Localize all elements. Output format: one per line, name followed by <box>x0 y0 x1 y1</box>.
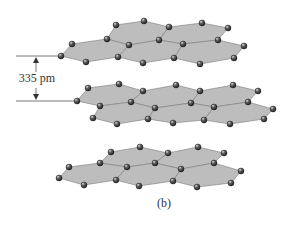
carbon-atom-icon <box>230 82 236 88</box>
carbon-atom-icon <box>66 164 72 170</box>
carbon-atom-icon <box>104 36 110 42</box>
carbon-atom-icon <box>152 160 158 166</box>
carbon-atom-icon <box>238 168 244 174</box>
carbon-atom-icon <box>140 60 146 66</box>
carbon-atom-icon <box>97 160 103 166</box>
carbon-atom-icon <box>108 149 114 155</box>
carbon-atom-icon <box>116 81 122 87</box>
carbon-atom-icon <box>194 184 200 190</box>
carbon-atom-icon <box>231 55 237 61</box>
carbon-atom-icon <box>126 42 132 48</box>
carbon-atom-icon <box>140 88 146 94</box>
carbon-atom-icon <box>145 116 151 122</box>
carbon-atom-icon <box>69 41 75 47</box>
carbon-atom-icon <box>227 121 233 127</box>
graphite-layers-diagram: 335 pm (b) <box>0 0 292 226</box>
carbon-atom-icon <box>152 105 158 111</box>
carbon-atom-icon <box>115 54 121 60</box>
carbon-atom-icon <box>137 144 143 150</box>
carbon-atom-icon <box>255 88 261 94</box>
carbon-atom-icon <box>156 37 162 43</box>
carbon-atom-icon <box>201 117 207 123</box>
carbon-atom-icon <box>180 41 186 47</box>
carbon-atom-icon <box>83 59 89 65</box>
carbon-atom-icon <box>221 150 227 156</box>
interlayer-spacing-dimension: 335 pm <box>16 56 74 101</box>
carbon-atom-icon <box>225 25 231 31</box>
carbon-atom-icon <box>170 178 176 184</box>
carbon-atom-icon <box>90 115 96 121</box>
graphene-layer-middle <box>74 81 276 127</box>
carbon-atom-icon <box>241 43 247 49</box>
carbon-atom-icon <box>173 82 179 88</box>
carbon-atom-icon <box>195 144 201 150</box>
carbon-atom-icon <box>74 98 80 104</box>
carbon-atom-icon <box>136 183 142 189</box>
carbon-atom-icon <box>124 164 130 170</box>
carbon-atom-icon <box>261 116 267 122</box>
carbon-atom-icon <box>113 22 119 28</box>
carbon-atom-icon <box>245 99 251 105</box>
spacing-label: 335 pm <box>19 71 56 85</box>
carbon-atom-icon <box>270 106 276 112</box>
carbon-atom-icon <box>114 121 120 127</box>
carbon-atom-icon <box>178 166 184 172</box>
graphene-layer-top <box>58 18 247 67</box>
carbon-atom-icon <box>141 18 147 24</box>
carbon-atom-icon <box>58 53 64 59</box>
carbon-atom-icon <box>228 180 234 186</box>
carbon-atom-icon <box>211 104 217 110</box>
carbon-atom-icon <box>56 175 62 181</box>
carbon-atom-icon <box>197 88 203 94</box>
carbon-atom-icon <box>85 85 91 91</box>
carbon-atom-icon <box>166 24 172 30</box>
carbon-atom-icon <box>215 37 221 43</box>
carbon-atom-icon <box>81 182 87 188</box>
carbon-atom-icon <box>113 177 119 183</box>
carbon-atom-icon <box>211 160 217 166</box>
carbon-atom-icon <box>170 120 176 126</box>
carbon-atom-icon <box>97 103 103 109</box>
carbon-atom-icon <box>188 100 194 106</box>
carbon-atom-icon <box>165 150 171 156</box>
carbon-atom-icon <box>128 99 134 105</box>
carbon-atom-icon <box>197 61 203 67</box>
figure-caption: (b) <box>157 196 171 210</box>
carbon-atom-icon <box>171 55 177 61</box>
graphene-layer-bottom <box>56 144 244 190</box>
carbon-atom-icon <box>199 20 205 26</box>
